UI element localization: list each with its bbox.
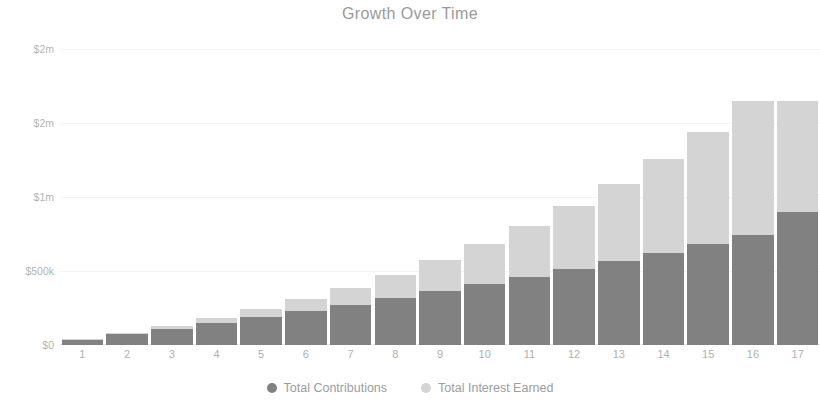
circle-icon bbox=[421, 383, 431, 393]
bar-segment-total-contributions[interactable] bbox=[509, 277, 551, 345]
bar-group[interactable] bbox=[151, 326, 193, 345]
bar-group[interactable] bbox=[62, 339, 104, 345]
x-tick-label: 8 bbox=[392, 348, 398, 360]
bar-group[interactable] bbox=[777, 101, 819, 345]
bar-segment-total-interest-earned[interactable] bbox=[464, 244, 506, 284]
bar-segment-total-interest-earned[interactable] bbox=[598, 184, 640, 262]
bar-group[interactable] bbox=[285, 299, 327, 345]
bar-segment-total-contributions[interactable] bbox=[196, 323, 238, 345]
x-tick-label: 4 bbox=[213, 348, 219, 360]
chart-legend: Total ContributionsTotal Interest Earned bbox=[0, 381, 820, 395]
y-axis: $0$500k$1m$2m$2m bbox=[0, 40, 54, 345]
plot-area bbox=[60, 40, 820, 345]
gridline bbox=[60, 49, 820, 50]
bar-segment-total-contributions[interactable] bbox=[62, 340, 104, 345]
bar-group[interactable] bbox=[598, 184, 640, 345]
bar-segment-total-contributions[interactable] bbox=[553, 269, 595, 345]
bar-group[interactable] bbox=[643, 159, 685, 345]
legend-item-label: Total Interest Earned bbox=[438, 381, 553, 395]
bar-group[interactable] bbox=[106, 333, 148, 345]
bar-segment-total-contributions[interactable] bbox=[106, 334, 148, 345]
x-tick-label: 12 bbox=[568, 348, 580, 360]
x-axis: 1234567891011121314151617 bbox=[60, 348, 820, 366]
bar-group[interactable] bbox=[240, 309, 282, 345]
bar-segment-total-interest-earned[interactable] bbox=[509, 226, 551, 277]
bar-segment-total-interest-earned[interactable] bbox=[330, 288, 372, 305]
bar-group[interactable] bbox=[330, 288, 372, 345]
bar-segment-total-interest-earned[interactable] bbox=[687, 132, 729, 245]
y-tick-label: $2m bbox=[34, 117, 54, 129]
bar-segment-total-interest-earned[interactable] bbox=[151, 326, 193, 329]
y-tick-label: $1m bbox=[34, 191, 54, 203]
bar-segment-total-interest-earned[interactable] bbox=[285, 299, 327, 311]
bar-segment-total-interest-earned[interactable] bbox=[732, 101, 774, 235]
y-tick-label: $2m bbox=[34, 43, 54, 55]
bar-segment-total-contributions[interactable] bbox=[598, 261, 640, 345]
x-tick-label: 7 bbox=[348, 348, 354, 360]
bar-group[interactable] bbox=[375, 275, 417, 345]
x-tick-label: 10 bbox=[479, 348, 491, 360]
x-tick-label: 17 bbox=[792, 348, 804, 360]
bar-segment-total-contributions[interactable] bbox=[464, 284, 506, 345]
bar-segment-total-contributions[interactable] bbox=[687, 244, 729, 345]
growth-over-time-chart: Growth Over Time $0$500k$1m$2m$2m 123456… bbox=[0, 0, 820, 405]
x-tick-label: 2 bbox=[124, 348, 130, 360]
bar-group[interactable] bbox=[732, 101, 774, 345]
x-tick-label: 1 bbox=[79, 348, 85, 360]
bar-segment-total-interest-earned[interactable] bbox=[196, 318, 238, 323]
chart-title: Growth Over Time bbox=[0, 5, 820, 23]
y-tick-label: $500k bbox=[25, 265, 54, 277]
bar-segment-total-contributions[interactable] bbox=[643, 253, 685, 345]
x-tick-label: 9 bbox=[437, 348, 443, 360]
x-tick-label: 11 bbox=[524, 348, 535, 360]
bar-segment-total-contributions[interactable] bbox=[285, 311, 327, 345]
bar-segment-total-contributions[interactable] bbox=[419, 291, 461, 345]
x-tick-label: 13 bbox=[613, 348, 625, 360]
bar-segment-total-interest-earned[interactable] bbox=[419, 260, 461, 291]
bar-group[interactable] bbox=[464, 244, 506, 345]
bar-segment-total-interest-earned[interactable] bbox=[106, 333, 148, 334]
gridline bbox=[60, 123, 820, 124]
x-tick-label: 16 bbox=[747, 348, 759, 360]
x-tick-label: 5 bbox=[258, 348, 264, 360]
legend-item-label: Total Contributions bbox=[284, 381, 388, 395]
bar-group[interactable] bbox=[196, 318, 238, 345]
bar-segment-total-interest-earned[interactable] bbox=[240, 309, 282, 317]
bar-group[interactable] bbox=[687, 132, 729, 345]
bar-group[interactable] bbox=[509, 226, 551, 345]
bar-group[interactable] bbox=[419, 260, 461, 345]
x-tick-label: 14 bbox=[657, 348, 669, 360]
bar-segment-total-interest-earned[interactable] bbox=[777, 101, 819, 212]
bar-segment-total-interest-earned[interactable] bbox=[643, 159, 685, 253]
bar-group[interactable] bbox=[553, 206, 595, 345]
bar-segment-total-contributions[interactable] bbox=[375, 298, 417, 345]
circle-icon bbox=[267, 383, 277, 393]
bar-segment-total-contributions[interactable] bbox=[732, 235, 774, 345]
x-tick-label: 6 bbox=[303, 348, 309, 360]
x-tick-label: 15 bbox=[702, 348, 714, 360]
y-tick-label: $0 bbox=[42, 339, 54, 351]
bar-segment-total-contributions[interactable] bbox=[151, 329, 193, 345]
bar-segment-total-contributions[interactable] bbox=[777, 212, 819, 345]
legend-item[interactable]: Total Contributions bbox=[267, 381, 388, 395]
legend-item[interactable]: Total Interest Earned bbox=[421, 381, 553, 395]
bar-segment-total-interest-earned[interactable] bbox=[375, 275, 417, 299]
bar-segment-total-contributions[interactable] bbox=[330, 305, 372, 345]
bar-segment-total-contributions[interactable] bbox=[240, 317, 282, 345]
x-tick-label: 3 bbox=[169, 348, 175, 360]
bar-segment-total-interest-earned[interactable] bbox=[553, 206, 595, 269]
